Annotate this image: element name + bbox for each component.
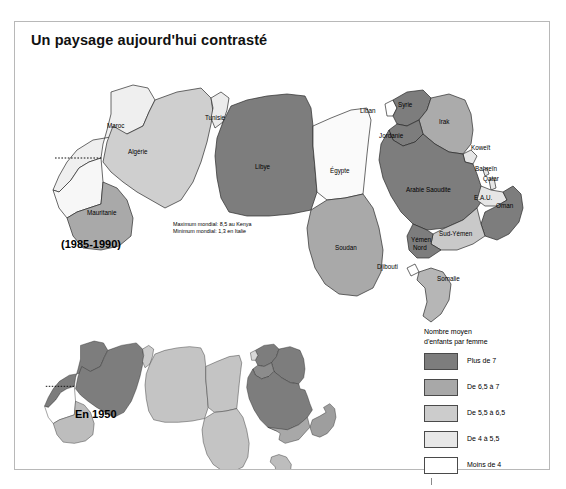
legend-item-de-4-a-5-5[interactable]: De 4 à 5,5: [424, 431, 549, 449]
legend-label: De 5,5 à 6,5: [467, 409, 505, 416]
legend-label: De 6,5 à 7: [467, 383, 499, 390]
map-label-qatar: Qatar: [483, 175, 499, 182]
legend-label: De 4 à 5,5: [467, 435, 499, 442]
period-label-main: (1985-1990): [61, 238, 121, 250]
note-minimum-mondial: Minimum mondial: 1,3 en Italie: [173, 228, 246, 235]
map-label-sud-yemen: Sud-Yémen: [439, 230, 472, 237]
legend-item-de-6-5-a-7[interactable]: De 6,5 à 7: [424, 379, 549, 397]
map-label-somalie: Somalie: [437, 275, 460, 282]
legend-label: Moins de 4: [467, 461, 501, 468]
legend-swatch: [424, 405, 458, 422]
region-djibouti: [407, 264, 419, 276]
map-label-yemen-nord: Nord: [413, 244, 427, 251]
legend-swatch: [424, 379, 458, 396]
legend-title: Nombre moyen d'enfants par femme: [424, 327, 488, 346]
map-label-libye: Libye: [255, 163, 270, 170]
legend-item-moins-de-4[interactable]: Moins de 4: [424, 457, 549, 475]
map-label-soudan: Soudan: [335, 244, 357, 251]
legend-title-line1: Nombre moyen: [424, 328, 472, 335]
region-libye: [215, 94, 317, 216]
map-label-yemen: Yémen: [411, 236, 431, 243]
map-label-irak: Irak: [439, 118, 450, 125]
map-label-eau: E.A.U.: [474, 194, 492, 201]
map-label-djibouti: Djibouti: [377, 263, 398, 270]
legend-label: Plus de 7: [467, 357, 496, 364]
legend-item-de-5-5-a-6-5[interactable]: De 5,5 à 6,5: [424, 405, 549, 423]
figure-frame: Un paysage aujourd'hui contrasté: [14, 21, 550, 470]
crop-tick-mark: [431, 478, 432, 485]
map-label-syrie: Syrie: [398, 101, 412, 108]
map-label-liban: Liban: [360, 107, 375, 114]
map-label-egypte: Égypte: [330, 167, 350, 174]
map-label-arabie-saoudite: Arabie Saoudite: [406, 186, 451, 193]
legend-swatch: [424, 431, 458, 448]
map-label-maroc: Maroc: [107, 122, 125, 129]
map-label-bahrein: Bahreïn: [475, 165, 497, 172]
legend-swatch: [424, 353, 458, 370]
legend-title-line2: d'enfants par femme: [424, 338, 488, 345]
map-label-jordanie: Jordanie: [379, 132, 403, 139]
inset-region-oman: [310, 404, 336, 437]
period-label-inset: En 1950: [75, 408, 117, 420]
region-egypte: [313, 108, 371, 200]
legend-swatch: [424, 457, 458, 474]
inset-region-somalie: [270, 455, 291, 469]
legend: Nombre moyen d'enfants par femme Plus de…: [424, 327, 549, 469]
inset-region-libye: [145, 347, 208, 423]
inset-region-egypte: [206, 355, 242, 412]
map-label-koweit: Koweït: [471, 144, 490, 151]
legend-item-plus-de-7[interactable]: Plus de 7: [424, 353, 549, 371]
map-label-tunisie: Tunisie: [205, 114, 225, 121]
map-label-oman: Oman: [496, 202, 513, 209]
map-label-algerie: Algérie: [128, 148, 148, 155]
inset-region-soudan: [202, 409, 249, 469]
map-label-mauritanie: Mauritanie: [87, 209, 116, 216]
